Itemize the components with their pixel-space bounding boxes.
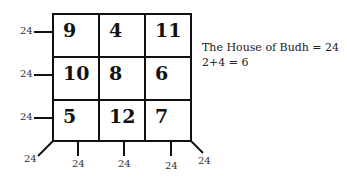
annotation-line: 2+4 = 6 (202, 55, 339, 70)
diagonal-sum-label: 24 (198, 155, 211, 166)
diagonal-sum-label: 24 (24, 153, 37, 164)
annotation: The House of Budh = 24 2+4 = 6 (202, 40, 339, 70)
annotation-line: The House of Budh = 24 (202, 40, 339, 55)
diagonal-ticks (0, 0, 347, 179)
